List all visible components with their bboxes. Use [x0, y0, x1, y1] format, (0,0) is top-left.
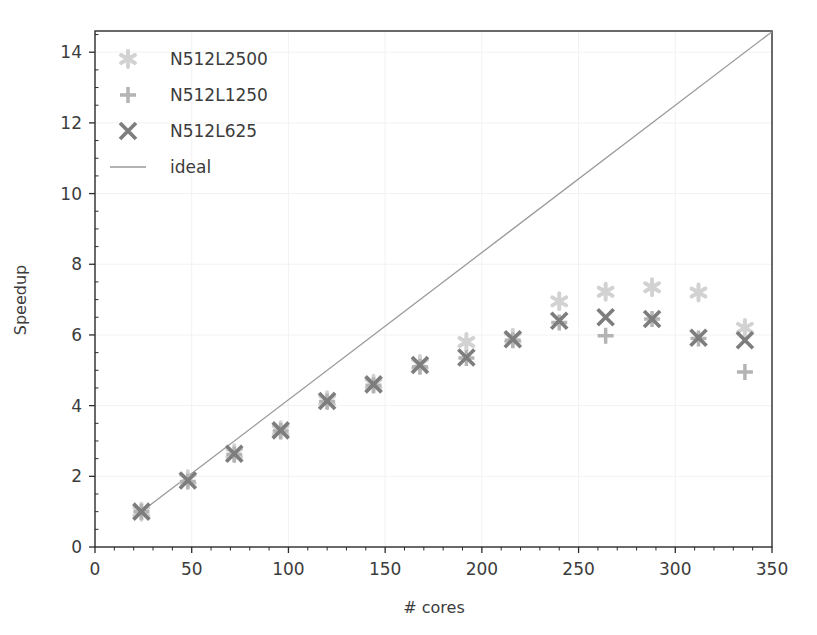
x-tick-label: 150 — [369, 559, 401, 579]
legend-label: ideal — [170, 157, 211, 177]
x-tick-label: 100 — [272, 559, 304, 579]
legend-label: N512L1250 — [170, 85, 268, 105]
y-tick-label: 10 — [60, 184, 82, 204]
x-tick-label: 250 — [562, 559, 594, 579]
y-tick-label: 2 — [71, 466, 82, 486]
x-tick-label: 0 — [90, 559, 101, 579]
x-axis-title: # cores — [403, 598, 464, 617]
legend-label: N512L2500 — [170, 49, 268, 69]
y-tick-label: 14 — [60, 42, 82, 62]
speedup-scatter-chart: 05010015020025030035002468101214 N512L25… — [0, 0, 817, 635]
x-tick-label: 50 — [181, 559, 203, 579]
x-tick-label: 200 — [466, 559, 498, 579]
chart-container: 05010015020025030035002468101214 N512L25… — [0, 0, 817, 635]
y-tick-label: 12 — [60, 113, 82, 133]
legend-label: N512L625 — [170, 121, 257, 141]
y-tick-label: 4 — [71, 396, 82, 416]
y-tick-label: 8 — [71, 254, 82, 274]
y-tick-label: 0 — [71, 537, 82, 557]
y-axis-title: Speedup — [11, 265, 30, 335]
x-tick-label: 300 — [659, 559, 691, 579]
x-tick-label: 350 — [756, 559, 788, 579]
y-tick-label: 6 — [71, 325, 82, 345]
